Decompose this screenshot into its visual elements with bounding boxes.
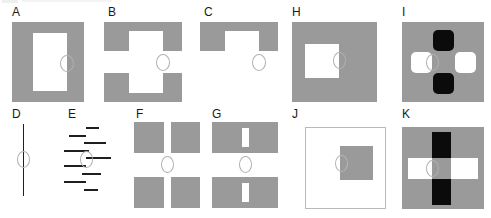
panel-d-label: D bbox=[12, 108, 21, 120]
panel-a-ellipse-marker bbox=[60, 55, 74, 72]
panel-i-top-black-square bbox=[433, 30, 454, 51]
panel-e-ellipse-marker bbox=[80, 151, 93, 168]
panel-g-stage bbox=[212, 122, 284, 214]
panel-f-ellipse-marker bbox=[161, 156, 174, 173]
panel-f-label: F bbox=[136, 108, 143, 120]
panel-k-label: K bbox=[402, 108, 410, 120]
scan-artifact-right bbox=[22, 0, 112, 2]
panel-e-label: E bbox=[68, 108, 76, 120]
panel-e-segment-8 bbox=[64, 181, 86, 183]
panel-g-ellipse-marker bbox=[239, 156, 252, 173]
panel-i-label: I bbox=[402, 6, 405, 18]
panel-e-stage bbox=[56, 122, 132, 212]
panel-f-stage bbox=[134, 122, 206, 214]
panel-h: H bbox=[288, 6, 388, 102]
panel-e-segment-1 bbox=[86, 127, 99, 129]
panel-c-stage bbox=[200, 22, 280, 102]
panel-a-stage bbox=[12, 22, 84, 102]
panel-h-stage bbox=[292, 22, 380, 104]
panel-g-lower-bar bbox=[242, 183, 249, 202]
panel-f-lower-slot bbox=[164, 177, 171, 208]
panel-i-stage bbox=[402, 22, 488, 104]
panel-a-label: A bbox=[12, 6, 20, 18]
panel-c: C bbox=[192, 6, 288, 102]
panel-e-segment-3 bbox=[84, 142, 106, 144]
panel-c-ellipse-marker bbox=[252, 54, 266, 71]
panel-k: K bbox=[388, 108, 491, 218]
panel-g-upper-bar bbox=[242, 128, 249, 147]
panel-c-label: C bbox=[204, 6, 213, 18]
panel-i: I bbox=[388, 6, 491, 102]
panel-b: B bbox=[96, 6, 192, 102]
panel-d-stage bbox=[12, 122, 56, 212]
panel-a: A bbox=[0, 6, 96, 102]
panel-f-upper-slot bbox=[164, 122, 171, 153]
panel-i-right-white-square bbox=[455, 52, 476, 73]
panel-j-ellipse-marker bbox=[335, 155, 348, 172]
panel-e-segment-7 bbox=[82, 173, 101, 175]
panel-d: D bbox=[0, 108, 56, 218]
panel-i-ellipse-marker bbox=[426, 54, 439, 71]
panel-d-ellipse-marker bbox=[17, 151, 30, 168]
panel-j-label: J bbox=[292, 108, 298, 120]
panel-i-bottom-black-square bbox=[433, 73, 454, 94]
scan-artifact-left bbox=[2, 0, 18, 3]
panel-k-ellipse-marker bbox=[426, 160, 439, 177]
panel-k-vertical-bar-upper bbox=[432, 132, 451, 158]
panel-e-segment-9 bbox=[84, 189, 98, 191]
panel-e: E bbox=[56, 108, 132, 218]
panel-k-vertical-bar-lower bbox=[432, 179, 451, 205]
panel-k-horizontal-bar-right bbox=[451, 158, 478, 179]
panel-h-label: H bbox=[292, 6, 301, 18]
panel-b-upper-notch bbox=[129, 31, 163, 51]
panel-k-stage bbox=[402, 122, 488, 216]
panel-g-label: G bbox=[212, 108, 221, 120]
panel-b-label: B bbox=[108, 6, 116, 18]
panel-f: F bbox=[132, 108, 208, 218]
panel-b-ellipse-marker bbox=[156, 54, 170, 71]
panel-h-ellipse-marker bbox=[333, 52, 346, 69]
panel-j-stage bbox=[292, 122, 384, 216]
panel-b-lower-notch bbox=[129, 73, 163, 93]
figure-canvas: A B C H bbox=[0, 0, 491, 218]
panel-j: J bbox=[288, 108, 388, 218]
panel-c-upper-notch bbox=[225, 31, 259, 51]
panel-g: G bbox=[208, 108, 288, 218]
panel-e-segment-2 bbox=[69, 135, 86, 137]
panel-b-stage bbox=[104, 22, 184, 102]
